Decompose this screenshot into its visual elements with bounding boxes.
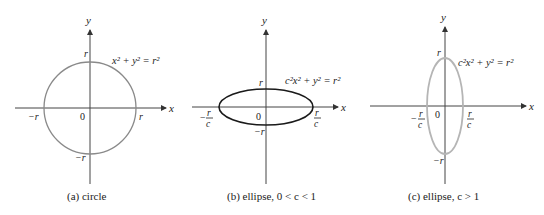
origin-label: 0 xyxy=(256,111,261,122)
label-left-den: c xyxy=(206,119,211,129)
x-axis-label: x xyxy=(168,102,174,114)
x-axis-label: x xyxy=(340,101,346,113)
equation-label: x² + y² = r² xyxy=(111,55,160,66)
label-top-r: r xyxy=(84,48,88,59)
y-axis-label: y xyxy=(440,11,446,23)
label-right-den: c xyxy=(467,120,472,130)
equation-label: c²x² + y² = r² xyxy=(285,75,341,86)
label-right-num: r xyxy=(315,108,319,118)
conic-sections-figure: y x r −r −r r 0 x² + y² = r² (a) circle … xyxy=(0,0,544,215)
label-bottom-neg-r: −r xyxy=(433,155,444,166)
equation-label: c²x² + y² = r² xyxy=(458,57,514,68)
y-axis-label: y xyxy=(85,14,91,26)
label-right-r: r xyxy=(139,111,143,122)
caption-b: (b) ellipse, 0 < c < 1 xyxy=(227,190,316,203)
label-top-r: r xyxy=(437,47,441,58)
label-top-r: r xyxy=(259,77,263,88)
origin-label: 0 xyxy=(435,109,440,120)
label-left-den: c xyxy=(418,120,423,130)
origin-label: 0 xyxy=(80,111,85,122)
panel-a-circle: y x r −r −r r 0 x² + y² = r² (a) circle xyxy=(15,14,174,203)
label-left-num: r xyxy=(419,109,423,119)
panel-b-wide-ellipse: y x r −r − r c r c 0 c²x² + y² = r² (b) … xyxy=(192,14,346,203)
label-right-num: r xyxy=(468,109,472,119)
label-right-den: c xyxy=(314,119,319,129)
x-axis-label: x xyxy=(528,100,534,112)
label-bottom-neg-r: −r xyxy=(75,152,86,163)
label-left-neg-r: −r xyxy=(28,111,39,122)
label-bottom-neg-r: −r xyxy=(254,126,265,137)
y-axis-label: y xyxy=(261,14,267,26)
panel-c-tall-ellipse: y x r −r − r c r c 0 c²x² + y² = r² (c) … xyxy=(370,11,534,203)
caption-c: (c) ellipse, c > 1 xyxy=(408,190,479,203)
label-left-num: r xyxy=(207,108,211,118)
caption-a: (a) circle xyxy=(67,190,106,203)
label-left-minus: − xyxy=(411,113,417,124)
